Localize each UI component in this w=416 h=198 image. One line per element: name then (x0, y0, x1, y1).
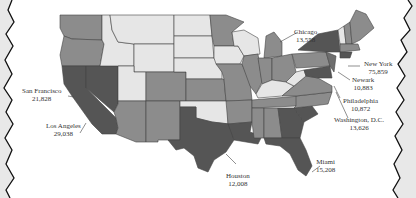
state-montana (110, 15, 174, 44)
city-label-philadelphia: Philadelphia 10,872 (343, 97, 378, 113)
city-value: 12,008 (226, 180, 250, 188)
state-kansas (186, 79, 226, 101)
city-value: 21,828 (22, 95, 61, 103)
state-oregon (60, 36, 104, 66)
city-label-miami: Miami 15,208 (316, 158, 335, 174)
city-value: 75,859 (364, 68, 392, 76)
state-north-dakota (174, 15, 212, 36)
city-name: Philadelphia (343, 97, 378, 105)
state-arkansas (226, 100, 252, 124)
city-value: 10,883 (352, 84, 374, 92)
state-michigan (264, 32, 282, 58)
state-maine (350, 10, 374, 44)
city-name: San Francisco (22, 87, 61, 95)
state-arizona (114, 101, 146, 142)
city-name: Miami (316, 158, 335, 166)
city-name: Washington, D.C. (334, 116, 384, 124)
city-label-washington-dc: Washington, D.C. 13,626 (334, 116, 384, 132)
city-name: Newark (352, 76, 374, 84)
city-value: 10,872 (343, 105, 378, 113)
city-label-los-angeles: Los Angeles 29,038 (46, 122, 81, 138)
city-value: 15,208 (316, 166, 335, 174)
city-name: Chicago (294, 28, 317, 36)
state-pennsylvania (292, 52, 330, 68)
state-massachusetts (340, 44, 360, 52)
city-value: 13,626 (334, 124, 384, 132)
city-name: Houston (226, 172, 250, 180)
state-colorado (146, 72, 186, 101)
city-label-houston: Houston 12,008 (226, 172, 250, 188)
map-page: Chicago 13,558 New York 75,859 Newark 10… (0, 0, 416, 198)
city-label-san-francisco: San Francisco 21,828 (22, 87, 61, 103)
state-washington (60, 15, 102, 40)
state-new-mexico (146, 101, 180, 142)
city-name: New York (364, 60, 392, 68)
state-mississippi (252, 108, 264, 138)
state-wyoming (134, 44, 174, 72)
city-value: 29,038 (46, 130, 81, 138)
city-value: 13,558 (294, 36, 317, 44)
state-florida (264, 138, 312, 176)
state-maryland (304, 66, 332, 78)
state-connecticut (340, 52, 352, 58)
city-label-new-york: New York 75,859 (364, 60, 392, 76)
city-label-newark: Newark 10,883 (352, 76, 374, 92)
city-name: Los Angeles (46, 122, 81, 130)
city-label-chicago: Chicago 13,558 (294, 28, 317, 44)
state-south-dakota (174, 36, 214, 58)
